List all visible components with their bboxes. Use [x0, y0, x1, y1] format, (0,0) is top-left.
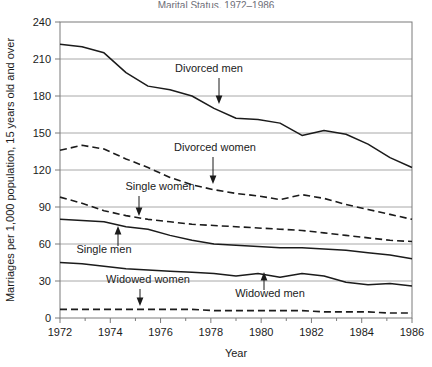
y-tick-label-180: 180: [33, 90, 51, 102]
chart-canvas: 0306090120150180210240 19721974197619781…: [0, 0, 432, 367]
x-tick-label-1982: 1982: [299, 326, 323, 338]
y-tick-label-210: 210: [33, 53, 51, 65]
y-tick-label-30: 30: [39, 275, 51, 287]
x-tick-label-1980: 1980: [249, 326, 273, 338]
x-tick-label-1984: 1984: [349, 326, 373, 338]
x-tick-label-1976: 1976: [148, 326, 172, 338]
y-axis-ticks: [55, 22, 60, 318]
y-tick-label-150: 150: [33, 127, 51, 139]
marital-status-line-chart: Marital Status, 1972–1986 03060901201501…: [0, 0, 432, 367]
y-axis-tick-labels: 0306090120150180210240: [33, 16, 51, 324]
x-tick-label-1978: 1978: [199, 326, 223, 338]
annotation-label-divorced-men: Divorced men: [175, 62, 243, 74]
annotation-label-widowed-men: Widowed men: [235, 287, 305, 299]
x-axis-ticks: [60, 318, 412, 323]
y-tick-label-120: 120: [33, 164, 51, 176]
annotation-label-widowed-women: Widowed women: [106, 273, 190, 285]
x-axis-tick-labels: 19721974197619781980198219841986: [48, 326, 424, 338]
y-axis-title: Marriages per 1,000 population, 15 years…: [4, 38, 16, 303]
x-tick-label-1972: 1972: [48, 326, 72, 338]
x-axis-title: Year: [225, 347, 248, 359]
y-tick-label-60: 60: [39, 238, 51, 250]
x-tick-label-1974: 1974: [98, 326, 122, 338]
annotation-label-single-women: Single women: [125, 180, 194, 192]
annotation-label-divorced-women: Divorced women: [174, 141, 256, 153]
annotation-label-single-men: Single men: [76, 243, 131, 255]
x-tick-label-1986: 1986: [400, 326, 424, 338]
y-tick-label-240: 240: [33, 16, 51, 28]
y-tick-label-90: 90: [39, 201, 51, 213]
y-tick-label-0: 0: [45, 312, 51, 324]
